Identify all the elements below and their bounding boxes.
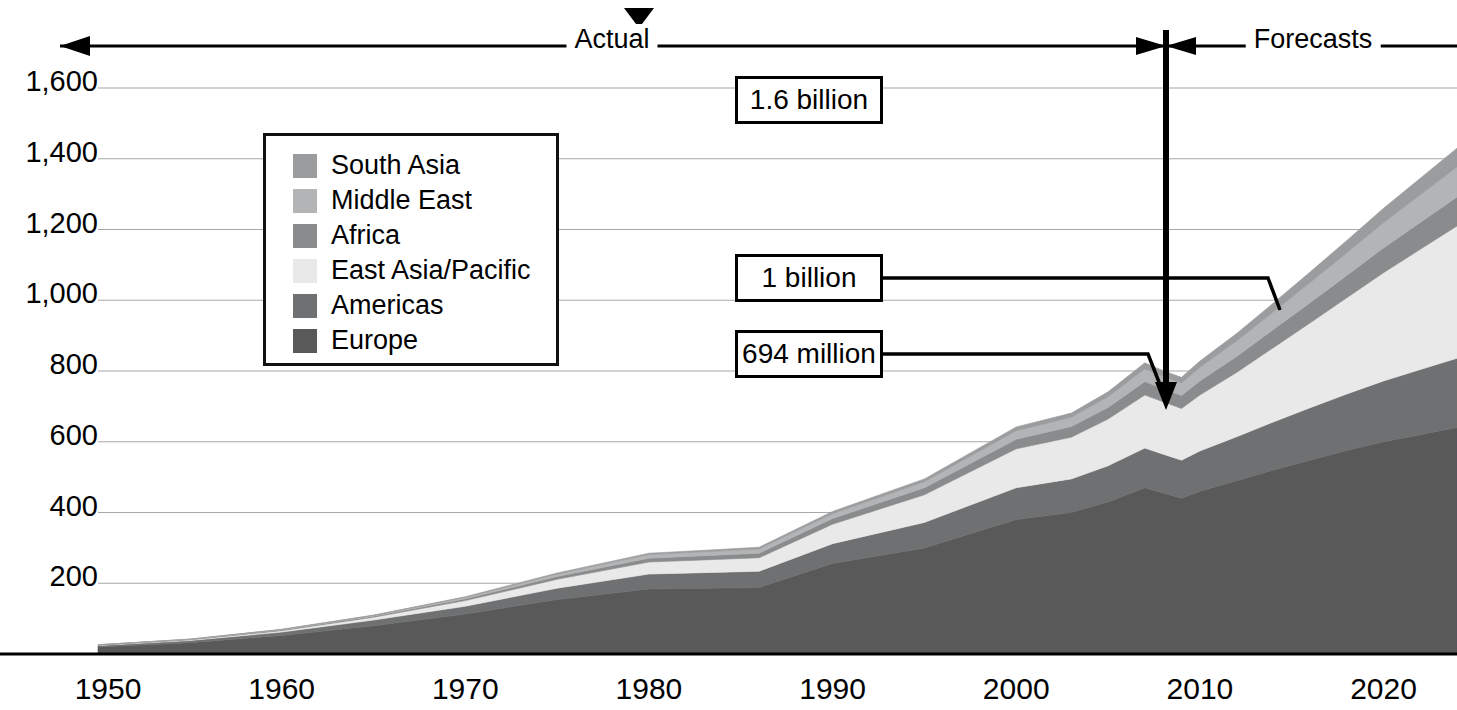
x-axis-tick-1970: 1970 xyxy=(432,672,499,706)
legend-item-label: East Asia/Pacific xyxy=(331,257,531,284)
chart-legend: South AsiaMiddle EastAfricaEast Asia/Pac… xyxy=(263,133,559,366)
legend-swatch-icon xyxy=(293,154,317,178)
y-axis-tick-1600: 1,600 xyxy=(0,67,98,96)
x-axis-tick-labels: 19501960197019801990200020102020 xyxy=(0,664,1457,710)
legend-item-europe[interactable]: Europe xyxy=(293,323,556,358)
x-axis-tick-2000: 2000 xyxy=(983,672,1050,706)
legend-item-south-asia[interactable]: South Asia xyxy=(293,148,556,183)
y-axis-tick-1000: 1,000 xyxy=(0,279,98,308)
x-axis-tick-1990: 1990 xyxy=(799,672,866,706)
area-chart-plot xyxy=(0,0,1457,710)
legend-item-label: Middle East xyxy=(331,187,472,214)
legend-swatch-icon xyxy=(293,294,317,318)
x-axis-tick-1960: 1960 xyxy=(248,672,315,706)
period-label-forecasts: Forecasts xyxy=(1246,24,1381,55)
y-axis-tick-labels: 2004006008001,0001,2001,4001,600 xyxy=(0,0,98,710)
legend-item-middle-east[interactable]: Middle East xyxy=(293,183,556,218)
x-axis-tick-1950: 1950 xyxy=(75,672,142,706)
legend-item-label: Europe xyxy=(331,327,418,354)
x-axis-tick-2020: 2020 xyxy=(1350,672,1417,706)
legend-item-americas[interactable]: Americas xyxy=(293,288,556,323)
legend-item-label: Americas xyxy=(331,292,444,319)
callout-694-million: 694 million xyxy=(735,330,883,378)
legend-swatch-icon xyxy=(293,189,317,213)
legend-swatch-icon xyxy=(293,329,317,353)
legend-item-label: Africa xyxy=(331,222,400,249)
legend-item-east-asia-pacific[interactable]: East Asia/Pacific xyxy=(293,253,556,288)
y-axis-tick-200: 200 xyxy=(0,562,98,591)
period-label-actual: Actual xyxy=(566,24,657,55)
callout-1-billion: 1 billion xyxy=(735,254,883,302)
chart-root: 2004006008001,0001,2001,4001,600 1950196… xyxy=(0,0,1457,710)
legend-swatch-icon xyxy=(293,224,317,248)
y-axis-tick-400: 400 xyxy=(0,492,98,521)
y-axis-tick-600: 600 xyxy=(0,421,98,450)
y-axis-tick-1400: 1,400 xyxy=(0,138,98,167)
legend-swatch-icon xyxy=(293,259,317,283)
legend-item-label: South Asia xyxy=(331,152,460,179)
x-axis-tick-1980: 1980 xyxy=(616,672,683,706)
x-axis-tick-2010: 2010 xyxy=(1167,672,1234,706)
callout-1-6-billion: 1.6 billion xyxy=(735,76,883,124)
legend-item-africa[interactable]: Africa xyxy=(293,218,556,253)
y-axis-tick-1200: 1,200 xyxy=(0,209,98,238)
y-axis-tick-800: 800 xyxy=(0,350,98,379)
